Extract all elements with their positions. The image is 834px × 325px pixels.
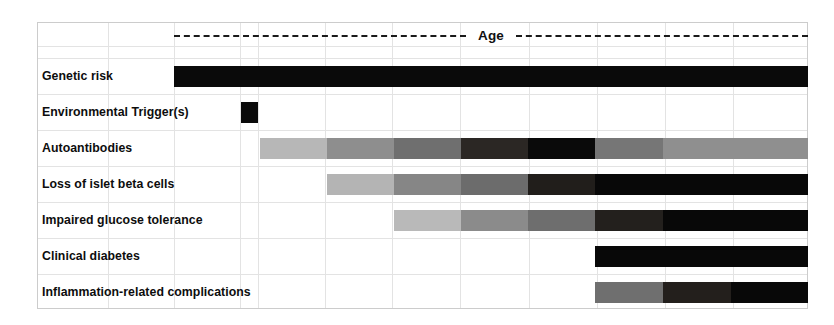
progression-bar-segment — [461, 174, 528, 195]
chart-row: Autoantibodies — [37, 130, 808, 166]
progression-bar — [394, 210, 808, 231]
progression-bar-segment — [595, 210, 663, 231]
progression-bar-segment — [241, 102, 259, 123]
progression-bar — [327, 174, 808, 195]
progression-bar — [241, 102, 259, 123]
row-label: Loss of islet beta cells — [42, 166, 174, 202]
age-axis-label: Age — [466, 28, 516, 43]
axis-dash-right — [516, 35, 808, 37]
progression-bar-segment — [731, 282, 808, 303]
progression-bar-segment — [260, 138, 327, 159]
row-label: Autoantibodies — [42, 130, 132, 166]
chart-row: Impaired glucose tolerance — [37, 202, 808, 238]
progression-bar — [595, 282, 808, 303]
progression-bar-segment — [394, 174, 461, 195]
progression-bar-segment — [461, 210, 528, 231]
row-label: Clinical diabetes — [42, 238, 140, 274]
progression-bar-segment — [327, 138, 394, 159]
progression-bar-segment — [595, 282, 663, 303]
progression-bar-segment — [595, 246, 808, 267]
progression-bar-segment — [663, 138, 808, 159]
progression-bar-segment — [174, 66, 808, 87]
progression-bar-segment — [528, 210, 595, 231]
row-label: Impaired glucose tolerance — [42, 202, 203, 238]
progression-bar-segment — [461, 138, 528, 159]
progression-bar-segment — [663, 210, 808, 231]
progression-bar — [260, 138, 808, 159]
progression-bar-segment — [595, 174, 808, 195]
progression-bar-segment — [528, 174, 595, 195]
row-label: Genetic risk — [42, 58, 113, 94]
chart-row: Genetic risk — [37, 58, 808, 94]
progression-bar-segment — [394, 210, 461, 231]
progression-bar — [595, 246, 808, 267]
row-label: Environmental Trigger(s) — [42, 94, 189, 130]
chart-row: Inflammation-related complications — [37, 274, 808, 310]
chart-row: Clinical diabetes — [37, 238, 808, 274]
age-axis-header: Age — [174, 24, 808, 46]
row-label: Inflammation-related complications — [42, 274, 251, 310]
progression-bar-segment — [394, 138, 461, 159]
progression-bar-segment — [327, 174, 394, 195]
disease-progression-chart: Age Genetic riskEnvironmental Trigger(s)… — [0, 0, 834, 325]
progression-bar-segment — [595, 138, 663, 159]
chart-row: Loss of islet beta cells — [37, 166, 808, 202]
chart-row: Environmental Trigger(s) — [37, 94, 808, 130]
progression-bar-segment — [528, 138, 595, 159]
frame-top-border — [37, 22, 808, 23]
progression-bar — [174, 66, 808, 87]
gridline-horizontal — [37, 46, 808, 47]
progression-bar-segment — [663, 282, 731, 303]
axis-dash-left — [174, 35, 466, 37]
